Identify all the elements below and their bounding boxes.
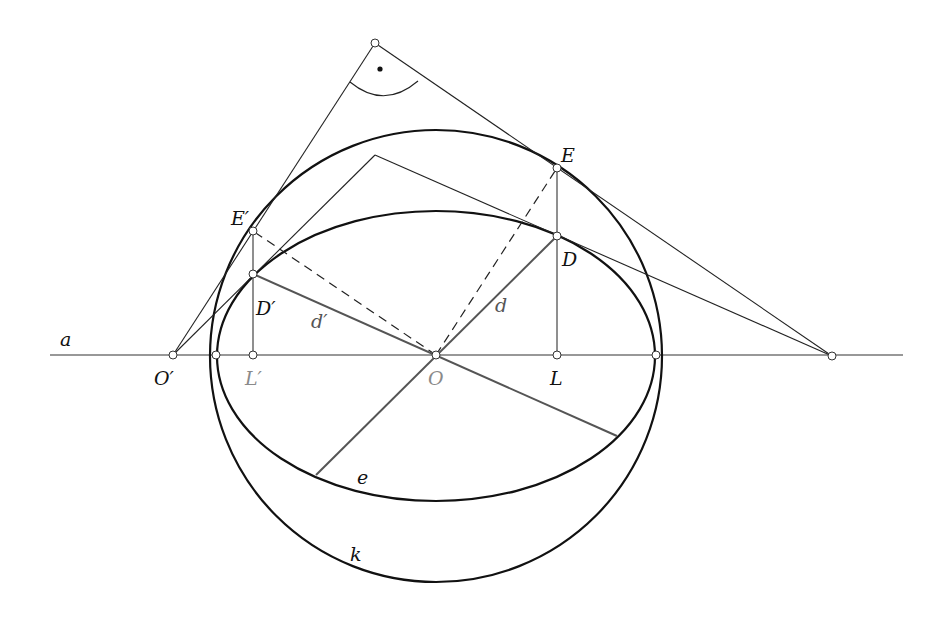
point-E-prime (249, 227, 257, 235)
label-a: a (60, 328, 71, 350)
point-right-intersection (652, 351, 660, 359)
point-L (553, 351, 561, 359)
label-E: E (560, 144, 575, 166)
dashed-OE-prime (253, 231, 436, 355)
label-e: e (357, 466, 368, 488)
dashed-OE (436, 168, 557, 355)
point-left-intersection (212, 351, 220, 359)
point-D (553, 232, 561, 240)
label-k: k (350, 543, 362, 565)
label-L: L (549, 367, 563, 389)
tangent-line-right-inner (375, 155, 832, 356)
label-E-prime: E′ (230, 207, 250, 229)
figure-canvas: a O′ L′ O L E E′ D D′ d d′ e k (0, 0, 943, 618)
label-L-prime: L′ (244, 367, 263, 389)
point-apex-outer (371, 39, 379, 47)
label-d: d (495, 294, 507, 316)
tangent-line-right-outer (375, 43, 832, 356)
right-angle-arc (350, 81, 418, 96)
label-O-prime: O′ (154, 367, 175, 389)
point-O (432, 351, 440, 359)
point-far-right (828, 352, 836, 360)
point-E (553, 164, 561, 172)
right-angle-dot (377, 66, 382, 71)
point-L-prime (249, 351, 257, 359)
point-O-prime (169, 351, 177, 359)
label-D-prime: D′ (255, 297, 276, 319)
point-D-prime (249, 270, 257, 278)
label-D: D (561, 248, 577, 270)
label-d-prime: d′ (311, 310, 328, 332)
tangent-line-left-inner (173, 155, 375, 355)
geometry-figure: a O′ L′ O L E E′ D D′ d d′ e k (0, 0, 943, 618)
label-O: O (428, 367, 444, 389)
